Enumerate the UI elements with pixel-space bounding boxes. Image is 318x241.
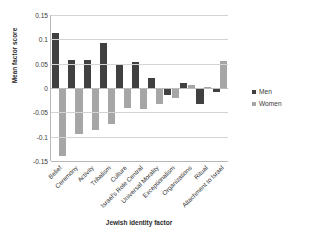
bar-women [124, 88, 131, 108]
bar-women [108, 88, 115, 124]
bar-men [116, 64, 123, 88]
bar-women [220, 61, 227, 88]
gridline [51, 137, 228, 138]
chart-legend: MenWomen [252, 88, 282, 112]
y-axis-title: Mean factor score [11, 1, 18, 111]
legend-item[interactable]: Men [252, 88, 282, 95]
y-axis-tick-labels: 0.150.10.050-0.05-0.1-0.15 [22, 10, 48, 165]
bar-women [75, 88, 82, 134]
y-axis-tick-label: -0.05 [22, 109, 48, 116]
x-axis-tick-labels: BeliefCeremonyActivityTribalismCultureIs… [50, 161, 228, 221]
y-axis-tick-label: 0 [22, 85, 48, 92]
y-axis-tick-label: 0.15 [22, 12, 48, 19]
bar-women [156, 88, 163, 104]
y-axis-tick-label: -0.1 [22, 133, 48, 140]
bar-men [132, 62, 139, 88]
bar-men [100, 43, 107, 88]
legend-swatch-icon [252, 102, 256, 106]
gridline [51, 15, 228, 16]
bar-men [52, 33, 59, 88]
plot-area [50, 15, 228, 161]
bar-women [59, 88, 66, 156]
bar-women [172, 88, 179, 98]
y-axis-tick-label: 0.1 [22, 36, 48, 43]
y-axis-tick-label: -0.15 [22, 158, 48, 165]
zero-line [51, 88, 228, 89]
legend-item[interactable]: Women [252, 100, 282, 107]
bar-women [140, 88, 147, 109]
x-axis-title: Jewish identity factor [50, 219, 228, 226]
bar-men [164, 88, 171, 95]
gridline [51, 64, 228, 65]
legend-label: Men [259, 88, 272, 95]
bar-men [148, 78, 155, 88]
chart-container: Mean factor score 0.150.10.050-0.05-0.1-… [0, 0, 318, 241]
bar-men [196, 88, 203, 104]
legend-label: Women [259, 100, 282, 107]
y-axis-tick-label: 0.05 [22, 60, 48, 67]
gridline [51, 39, 228, 40]
legend-swatch-icon [252, 90, 256, 94]
gridline [51, 112, 228, 113]
bar-women [92, 88, 99, 130]
